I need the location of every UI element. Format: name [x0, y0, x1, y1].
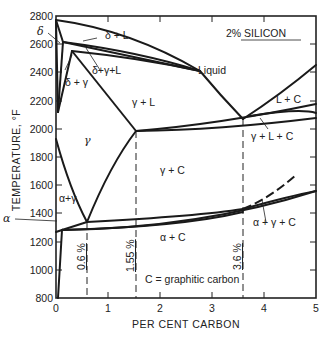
- region-delta-L: δ + L: [105, 29, 129, 41]
- region-gamma-C: γ + C: [160, 164, 185, 176]
- y-tick: 1000: [30, 264, 54, 276]
- x-tick: 3: [209, 302, 215, 314]
- y-tick: 800: [35, 292, 53, 304]
- graphite-note: C = graphitic carbon: [145, 273, 239, 285]
- y-tick: 2400: [30, 66, 54, 78]
- region-alpha-gamma-C: α + γ + C: [253, 216, 296, 228]
- region-liquid: Liquid: [198, 64, 226, 76]
- y-tick: 1800: [30, 151, 54, 163]
- region-gamma: γ: [84, 134, 91, 147]
- y-tick: 2600: [30, 38, 54, 50]
- marker-1-55: 1.55 %: [124, 239, 136, 272]
- x-tick: 5: [313, 302, 319, 314]
- x-tick: 4: [261, 302, 267, 314]
- region-delta-gamma-L: δ+γ+L: [92, 64, 121, 76]
- x-tick: 2: [157, 302, 163, 314]
- x-tick: 0: [53, 302, 59, 314]
- region-delta: δ: [37, 25, 44, 38]
- region-L-C: L + C: [276, 93, 301, 105]
- region-delta-gamma: δ + γ: [65, 76, 89, 88]
- phase-diagram: 800 1000 1200 1400 1600 1800 2000 2200 2…: [0, 0, 332, 339]
- y-tick: 1400: [30, 207, 54, 219]
- x-tick: 1: [105, 302, 111, 314]
- region-alpha: α: [3, 212, 11, 225]
- y-tick: 2800: [30, 10, 54, 22]
- y-axis-label: TEMPERATURE, °F: [10, 109, 22, 212]
- y-tick: 2200: [30, 95, 54, 107]
- marker-3-6: 3.6 %: [231, 243, 243, 270]
- marker-0-6: 0.6 %: [75, 243, 87, 270]
- region-gamma-L-C: γ + L + C: [251, 130, 294, 142]
- y-tick: 1600: [30, 179, 54, 191]
- x-axis-label: PER CENT CARBON: [132, 318, 240, 330]
- y-tick: 2000: [30, 123, 54, 135]
- region-alpha-gamma: α+γ: [59, 192, 77, 204]
- y-tick: 1200: [30, 236, 54, 248]
- region-alpha-C: α + C: [160, 231, 186, 243]
- y-axis: [56, 44, 316, 270]
- plot-frame: [56, 16, 316, 298]
- composition-markers: [87, 119, 243, 298]
- chart-title: 2% SILICON: [226, 27, 286, 39]
- region-gamma-L: γ + L: [132, 96, 155, 108]
